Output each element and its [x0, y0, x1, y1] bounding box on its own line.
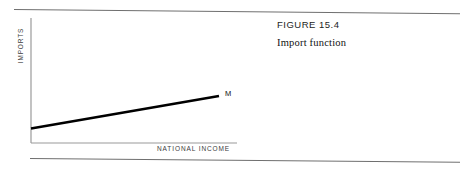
- figure-container: IMPORTS NATIONAL INCOME M FIGURE 15.4 Im…: [0, 0, 462, 172]
- chart-svg: [0, 0, 250, 160]
- import-function-line: [31, 96, 219, 129]
- x-axis-label: NATIONAL INCOME: [157, 145, 230, 152]
- y-axis-label: IMPORTS: [17, 16, 24, 76]
- curve-label-m: M: [225, 89, 231, 98]
- figure-caption-block: FIGURE 15.4 Import function: [277, 19, 447, 48]
- figure-title: Import function: [277, 37, 447, 48]
- figure-number: FIGURE 15.4: [277, 19, 447, 30]
- chart-plot-area: IMPORTS NATIONAL INCOME M: [0, 0, 250, 160]
